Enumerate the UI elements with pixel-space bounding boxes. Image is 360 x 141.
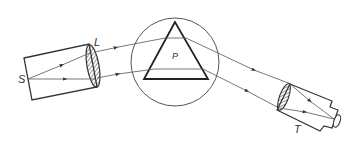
- prism-table: [131, 18, 219, 106]
- label-lens: L: [94, 37, 100, 48]
- diagram-canvas: [0, 0, 360, 141]
- label-prism: P: [172, 52, 178, 61]
- collimator: [24, 44, 103, 100]
- eyepiece-icon: [332, 114, 342, 128]
- spectrometer-diagram: S L P T: [0, 0, 360, 141]
- telescope: [275, 82, 342, 131]
- label-source: S: [18, 74, 25, 85]
- collimator-lens-icon: [83, 44, 102, 88]
- label-telescope: T: [294, 124, 301, 135]
- telescope-objective-icon: [275, 82, 293, 111]
